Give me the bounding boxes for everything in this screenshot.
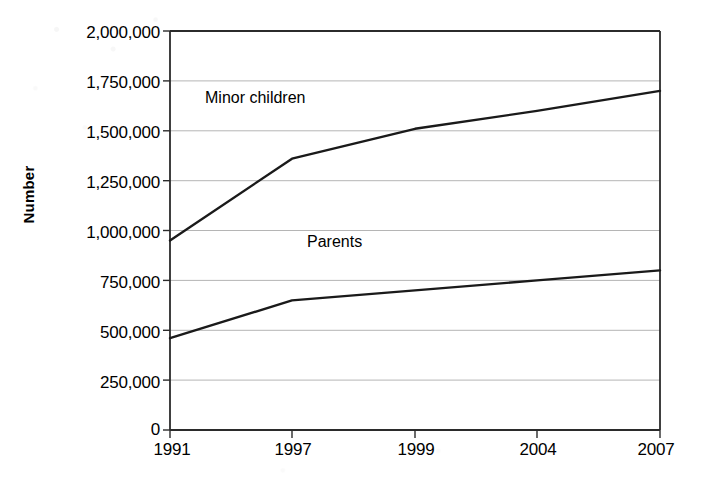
x-axis-ticks (170, 430, 660, 438)
x-tick-label: 2007 (616, 440, 696, 460)
x-tick-label: 2004 (498, 440, 578, 460)
gridlines (170, 81, 660, 380)
line-chart-figure: Number 2,000,000 1,750,000 1,500,000 1,2… (0, 0, 707, 490)
x-tick-label: 1997 (253, 440, 333, 460)
series-label-parents: Parents (307, 233, 362, 251)
x-axis-tick-labels: 1991 1997 1999 2004 2007 (0, 440, 707, 470)
x-tick-label: 1999 (376, 440, 456, 460)
series-line-minor-children (170, 91, 660, 241)
y-axis-ticks (163, 31, 170, 430)
series-label-minor-children: Minor children (205, 89, 305, 107)
x-tick-label: 1991 (132, 440, 212, 460)
